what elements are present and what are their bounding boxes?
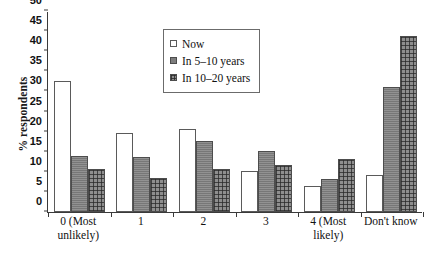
x-tick-label-line: 2 [172, 215, 235, 229]
legend-swatch-icon [170, 74, 177, 81]
bar [88, 169, 105, 212]
bar-chart: % respondents 05101520253035404550 0 (Mo… [0, 0, 435, 267]
x-tick-label-line: likely) [297, 229, 360, 243]
bar [338, 159, 355, 212]
bar [304, 186, 321, 212]
bar [241, 171, 258, 212]
bar-group [48, 12, 111, 212]
y-tick-label: 5 [36, 175, 48, 186]
bar [150, 178, 167, 212]
legend: NowIn 5–10 yearsIn 10–20 years [163, 29, 260, 93]
x-tick-label: 4 (Mostlikely) [297, 215, 360, 242]
bar [383, 87, 400, 212]
bar-group [361, 12, 424, 212]
y-tick-label: 50 [30, 0, 48, 6]
y-tick-label: 35 [30, 55, 48, 66]
bar [366, 175, 383, 212]
legend-label: In 5–10 years [182, 55, 245, 67]
legend-swatch-icon [170, 40, 177, 47]
bar [321, 179, 338, 212]
y-tick-label: 0 [36, 196, 48, 207]
legend-label: Now [182, 38, 204, 50]
bar [133, 157, 150, 212]
y-tick-label: 10 [30, 155, 48, 166]
y-tick-label: 45 [30, 15, 48, 26]
bar [116, 133, 133, 212]
x-tick-label-line: Don't know [360, 215, 423, 229]
bar-group [298, 12, 361, 212]
legend-item[interactable]: In 10–20 years [170, 69, 250, 86]
x-tick-label: Don't know [360, 215, 423, 229]
x-tick-mark [423, 212, 424, 217]
x-tick-label: 3 [235, 215, 298, 229]
x-tick-label-line: 0 (Most [47, 215, 110, 229]
legend-item[interactable]: In 5–10 years [170, 52, 250, 69]
y-tick-mark [44, 10, 48, 11]
bar [71, 156, 88, 212]
y-axis-title: % respondents [17, 44, 29, 184]
y-tick-label: 40 [30, 35, 48, 46]
legend-item[interactable]: Now [170, 35, 250, 52]
legend-label: In 10–20 years [182, 72, 250, 84]
bar [400, 36, 417, 212]
x-tick-label-line: unlikely) [47, 229, 110, 243]
bar [54, 81, 71, 212]
legend-swatch-icon [170, 57, 177, 64]
x-tick-label-line: 3 [235, 215, 298, 229]
x-tick-label: 0 (Mostunlikely) [47, 215, 110, 242]
y-tick-label: 30 [30, 75, 48, 86]
bar [275, 165, 292, 212]
y-tick-label: 15 [30, 135, 48, 146]
bar [258, 151, 275, 213]
x-tick-label-line: 4 (Most [297, 215, 360, 229]
y-tick-label: 25 [30, 95, 48, 106]
x-axis-labels: 0 (Mostunlikely)1234 (Mostlikely)Don't k… [47, 215, 422, 263]
bar [196, 141, 213, 212]
bar [213, 169, 230, 212]
y-tick-label: 20 [30, 115, 48, 126]
x-tick-label: 1 [110, 215, 173, 229]
x-tick-label-line: 1 [110, 215, 173, 229]
bar [179, 129, 196, 212]
x-tick-label: 2 [172, 215, 235, 229]
